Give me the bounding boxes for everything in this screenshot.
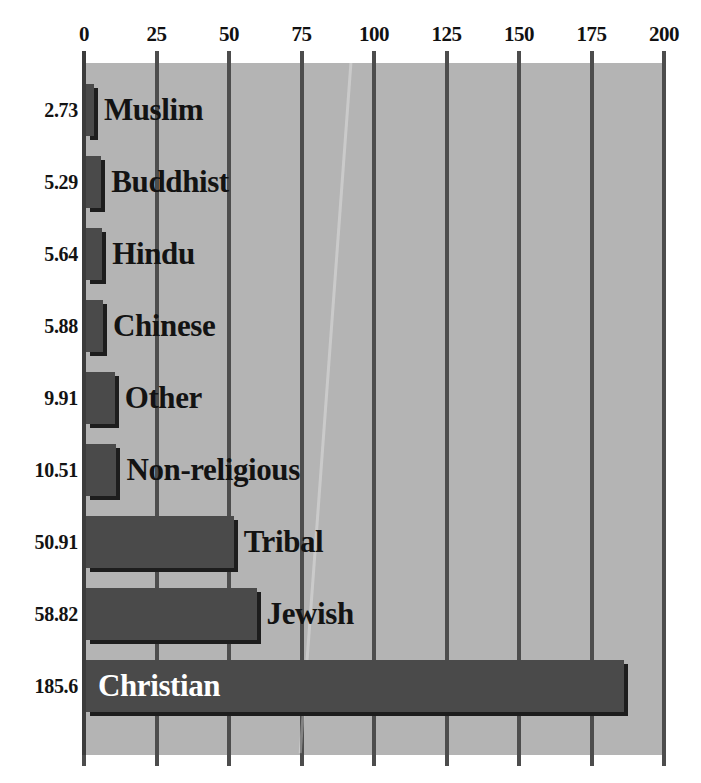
bar-row: 58.82Jewish: [0, 578, 701, 650]
x-tick-label: 150: [504, 22, 534, 47]
bar-category-label: Muslim: [104, 92, 203, 128]
bottom-tick-mark: [372, 755, 376, 766]
x-tick-label: 100: [359, 22, 389, 47]
bar-category-label: Jewish: [267, 596, 354, 632]
bottom-tick-mark: [155, 755, 159, 766]
x-tick-label: 25: [147, 22, 167, 47]
bar-value-label: 58.82: [34, 603, 78, 626]
bar-value-label: 50.91: [34, 531, 78, 554]
bar: [86, 444, 116, 496]
bar: [86, 588, 257, 640]
bottom-tick-mark: [662, 755, 666, 766]
bar: [86, 156, 101, 208]
bottom-tick-mark: [590, 755, 594, 766]
bar-row: 185.6Christian: [0, 650, 701, 722]
x-tick-label: 200: [649, 22, 679, 47]
bar-row: 5.88Chinese: [0, 290, 701, 362]
bar-chart: 0255075100125150175200 2.73Muslim5.29Bud…: [0, 0, 701, 783]
bar-row: 2.73Muslim: [0, 74, 701, 146]
bar-row: 5.29Buddhist: [0, 146, 701, 218]
bar-value-label: 9.91: [44, 387, 78, 410]
bottom-tick-mark: [445, 755, 449, 766]
x-tick-label: 0: [79, 22, 89, 47]
bar-row: 10.51Non-religious: [0, 434, 701, 506]
bottom-tick-mark: [517, 755, 521, 766]
bar-row: 50.91Tribal: [0, 506, 701, 578]
bar-category-label: Christian: [98, 668, 220, 704]
bar: [86, 300, 103, 352]
bar-value-label: 5.88: [44, 315, 78, 338]
bar-category-label: Other: [125, 380, 202, 416]
bar-value-label: 2.73: [44, 99, 78, 122]
bar: [86, 372, 115, 424]
x-tick-label: 75: [292, 22, 312, 47]
bar-category-label: Non-religious: [126, 452, 299, 488]
x-axis-tick-labels: 0255075100125150175200: [0, 0, 701, 52]
bar-category-label: Chinese: [113, 308, 215, 344]
bar-row: 5.64Hindu: [0, 218, 701, 290]
x-tick-label: 50: [219, 22, 239, 47]
bar: [86, 516, 234, 568]
bar-category-label: Tribal: [244, 524, 324, 560]
bottom-axis-ticks: [0, 755, 701, 769]
bar-category-label: Buddhist: [111, 164, 228, 200]
bar-value-label: 5.29: [44, 171, 78, 194]
bar: [86, 84, 94, 136]
bar: [86, 228, 102, 280]
bar-value-label: 10.51: [34, 459, 78, 482]
bottom-tick-mark: [300, 755, 304, 766]
bar-value-label: 5.64: [44, 243, 78, 266]
bar-row: 9.91Other: [0, 362, 701, 434]
x-tick-label: 175: [577, 22, 607, 47]
bar-value-label: 185.6: [34, 675, 78, 698]
x-tick-label: 125: [432, 22, 462, 47]
bar-category-label: Hindu: [112, 236, 194, 272]
bottom-tick-mark: [82, 755, 86, 766]
bottom-tick-mark: [227, 755, 231, 766]
